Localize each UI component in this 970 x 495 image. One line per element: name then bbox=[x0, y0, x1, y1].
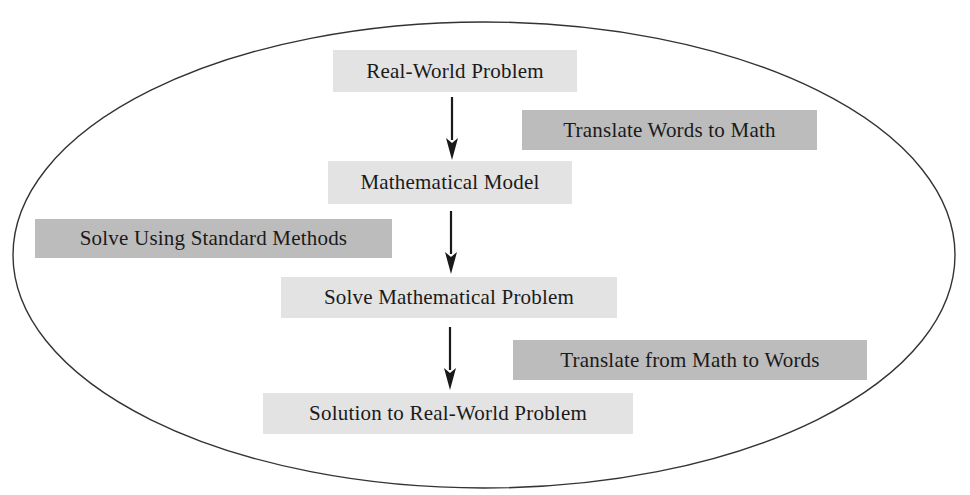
step-solve-mathematical-problem: Solve Mathematical Problem bbox=[281, 277, 617, 318]
action-solve-using-standard-methods: Solve Using Standard Methods bbox=[35, 219, 392, 258]
step-mathematical-model: Mathematical Model bbox=[328, 161, 572, 204]
action-translate-from-math-to-words: Translate from Math to Words bbox=[513, 340, 867, 380]
arrow-2-down-icon bbox=[445, 211, 457, 274]
action-translate-words-to-math: Translate Words to Math bbox=[522, 110, 817, 150]
arrow-3-down-icon bbox=[444, 327, 456, 390]
arrow-1-down-icon bbox=[446, 97, 458, 160]
modeling-process-diagram: Real-World Problem Translate Words to Ma… bbox=[0, 0, 970, 495]
step-solution-to-real-world-problem: Solution to Real-World Problem bbox=[263, 393, 633, 434]
step-real-world-problem: Real-World Problem bbox=[333, 50, 577, 92]
